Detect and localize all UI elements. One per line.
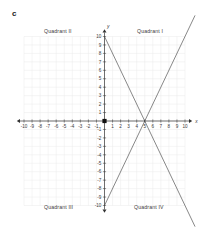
quadrant-label-2: Quadrant II [44, 28, 72, 34]
data-line-ascending-line [105, 15, 196, 205]
y-tick-label: 6 [99, 68, 102, 73]
x-tick-label: 8 [168, 124, 171, 129]
x-tick-label: 5 [143, 124, 146, 129]
x-tick-label: 6 [152, 124, 155, 129]
x-tick-label: -2 [86, 124, 91, 129]
y-tick-label: -7 [97, 178, 102, 183]
quadrant-label-3: Quadrant III [44, 204, 73, 210]
y-tick-label: 10 [96, 34, 102, 39]
x-tick-label: -7 [46, 124, 51, 129]
x-tick-label: 4 [135, 124, 138, 129]
y-axis-arrow-down [103, 210, 107, 213]
y-tick-label: 5 [99, 76, 102, 81]
x-axis-title: x [194, 119, 198, 124]
y-axis-arrow-up [103, 29, 107, 32]
y-tick-label: 2 [99, 102, 102, 107]
y-tick-label: -6 [97, 169, 102, 174]
figure-panel: c -10-9-8-7-6-5-4-3-2-112345678910109876… [0, 0, 219, 235]
x-tick-label: -3 [78, 124, 83, 129]
y-tick-label: -2 [97, 136, 102, 141]
x-tick-label: 1 [111, 124, 114, 129]
x-axis-arrow-left [17, 119, 20, 123]
y-tick-label: 3 [99, 93, 102, 98]
y-tick-label: 9 [99, 43, 102, 48]
x-tick-label: 7 [160, 124, 163, 129]
y-tick-label: -4 [97, 153, 102, 158]
y-tick-label: 1 [99, 110, 102, 115]
x-tick-label: -8 [38, 124, 43, 129]
data-line-descending-line [105, 37, 196, 227]
coordinate-plane-chart: -10-9-8-7-6-5-4-3-2-11234567891010987654… [0, 0, 219, 235]
y-tick-label: 4 [99, 85, 102, 90]
x-tick-label: -5 [62, 124, 67, 129]
y-tick-label: 7 [99, 60, 102, 65]
origin-marker [102, 119, 106, 123]
x-tick-label: -4 [70, 124, 75, 129]
x-tick-label: 9 [176, 124, 179, 129]
y-tick-label: -10 [95, 203, 102, 208]
x-tick-label: -6 [54, 124, 59, 129]
y-tick-label: -5 [97, 161, 102, 166]
x-tick-label: 10 [182, 124, 188, 129]
y-axis-title: y [106, 24, 110, 29]
quadrant-label-1: Quadrant I [137, 28, 163, 34]
x-tick-label: 3 [127, 124, 130, 129]
x-tick-label: -10 [21, 124, 28, 129]
y-tick-label: -3 [97, 144, 102, 149]
x-axis-arrow-right [189, 119, 192, 123]
y-tick-label: -1 [97, 127, 102, 132]
quadrant-label-4: Quadrant IV [134, 204, 164, 210]
y-tick-label: -9 [97, 195, 102, 200]
x-tick-label: -9 [30, 124, 35, 129]
y-tick-label: 8 [99, 51, 102, 56]
y-tick-label: -8 [97, 186, 102, 191]
x-tick-label: 2 [119, 124, 122, 129]
axis-titles: xy [106, 24, 198, 124]
